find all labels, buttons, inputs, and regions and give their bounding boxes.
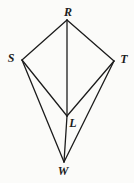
edge-SL	[22, 60, 67, 116]
edge-RS	[22, 20, 67, 60]
geometry-diagram: RSTLW	[0, 0, 134, 183]
vertex-labels-group: RSTLW	[8, 5, 129, 178]
vertex-label-R: R	[63, 5, 72, 19]
vertex-label-S: S	[8, 51, 15, 65]
vertex-label-L: L	[68, 116, 76, 130]
edge-SW	[22, 60, 64, 162]
vertex-label-T: T	[120, 52, 128, 66]
edge-RT	[67, 20, 114, 61]
edge-LW	[64, 116, 67, 162]
edges-group	[22, 20, 114, 162]
vertex-label-W: W	[58, 164, 70, 178]
kite-figure: RSTLW	[0, 0, 134, 183]
